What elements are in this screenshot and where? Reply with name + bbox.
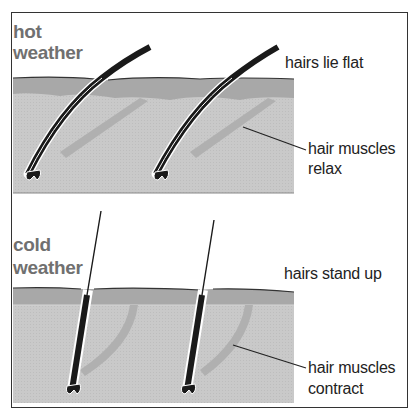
hot-muscle-label-line1: hair muscles (308, 139, 395, 159)
cold-muscle-label-line2: contract (308, 379, 363, 399)
hairs-stand-up-label: hairs stand up (284, 264, 382, 284)
cold-muscle-label-line1: hair muscles (308, 358, 395, 378)
hot-weather-title-line1: hot (13, 22, 42, 42)
hot-weather-title-line2: weather (13, 43, 83, 63)
cold-weather-title-line1: cold (13, 235, 51, 255)
cold-weather-title-line2: weather (13, 258, 83, 278)
hairs-lie-flat-label: hairs lie flat (285, 53, 363, 73)
hot-muscle-label-line2: relax (308, 159, 342, 179)
cold-weather-skin (13, 288, 294, 403)
